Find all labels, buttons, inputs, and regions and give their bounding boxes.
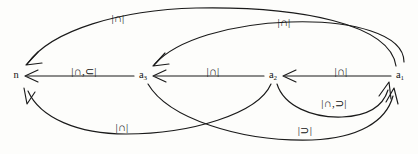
- edge-a1-to-n-top: [26, 8, 396, 66]
- edge-label-a2-n-bottom: |∩|: [115, 122, 128, 133]
- arrowhead-n-top: [26, 52, 42, 65]
- node-a1-label: a: [396, 69, 401, 80]
- edge-label-a2-a3: |∩|: [206, 66, 219, 77]
- arrowhead-n-bottom: [24, 88, 35, 104]
- node-a2: a2: [269, 70, 277, 81]
- node-a3: a3: [139, 70, 147, 81]
- diagram-canvas: n a3 a2 a1 |∩| |∩| |∩,⊂| |∩| |∩| |∩| |⊃|…: [0, 0, 418, 154]
- node-a3-label: a: [139, 69, 144, 80]
- edge-label-a1-a2: |∩|: [334, 66, 347, 77]
- node-n-label: n: [13, 69, 18, 80]
- edge-path-a1-a3-top: [155, 22, 404, 64]
- node-a1-subscript: 1: [401, 74, 405, 82]
- node-a3-subscript: 3: [144, 74, 148, 82]
- edge-label-a2-a1-lower: |∩,⊃|: [321, 98, 347, 109]
- edge-label-a3-a1-bottom: |⊃|: [298, 125, 312, 136]
- node-a2-label: a: [269, 69, 274, 80]
- graph-svg: [0, 0, 418, 154]
- edge-path-a2-n-bottom: [28, 84, 271, 134]
- edge-label-a1-n-top: |∩|: [111, 13, 124, 24]
- arrowhead-a3-top: [153, 53, 169, 66]
- edge-a1-to-a3-top: [153, 22, 404, 66]
- edge-path-a3-a1-bottom: [148, 84, 393, 140]
- edge-path-a1-n-top: [28, 8, 396, 66]
- edge-a2-to-n-bottom: [24, 84, 271, 134]
- node-a2-subscript: 2: [274, 74, 278, 82]
- node-a1: a1: [396, 70, 404, 81]
- edge-label-a3-n: |∩,⊂|: [71, 66, 97, 77]
- edge-label-a1-a3-top: |∩|: [277, 17, 290, 28]
- node-n: n: [13, 70, 18, 81]
- edge-a3-to-a1-bottom: [148, 84, 398, 140]
